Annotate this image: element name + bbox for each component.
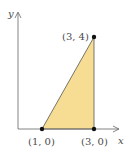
y-axis-label: y xyxy=(7,8,14,19)
shaded-triangle-region xyxy=(42,37,94,129)
point-3-0 xyxy=(92,127,96,131)
coordinate-plane: y x (1, 0) (3, 0) (3, 4) xyxy=(0,0,131,152)
point-label-3-0: (3, 0) xyxy=(81,136,108,147)
point-1-0 xyxy=(40,127,44,131)
x-axis-label: x xyxy=(118,135,124,146)
diagram: y x (1, 0) (3, 0) (3, 4) xyxy=(0,0,131,152)
point-label-1-0: (1, 0) xyxy=(28,136,55,147)
point-label-3-4: (3, 4) xyxy=(62,31,89,42)
point-3-4 xyxy=(92,35,96,39)
